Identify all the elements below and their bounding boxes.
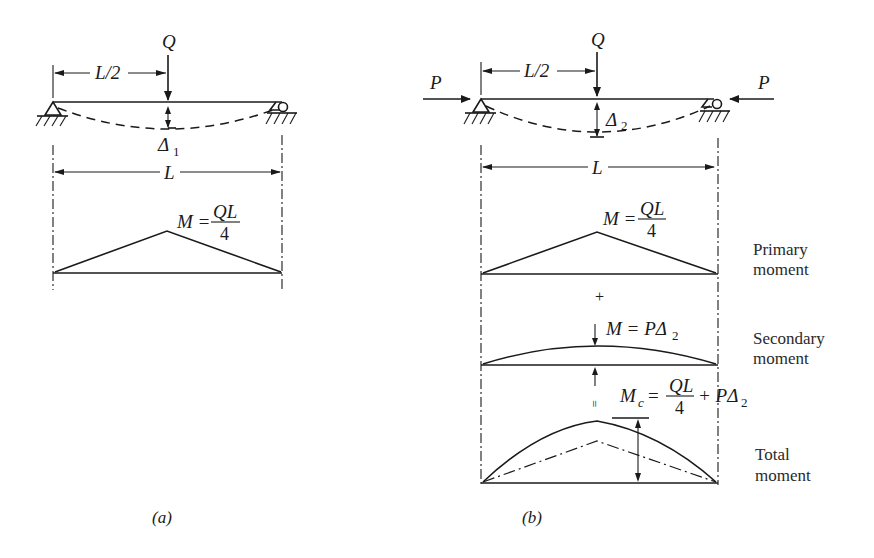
primary-moment-label: Primary — [753, 240, 808, 259]
svg-text:QL: QL — [669, 375, 693, 396]
svg-text:1: 1 — [173, 144, 180, 159]
deflection-label-b: Δ — [605, 109, 617, 130]
roller-support-icon — [266, 102, 297, 124]
total-moment-expr: M — [619, 385, 637, 406]
pin-support-icon — [36, 102, 68, 126]
deflection-label: Δ — [157, 134, 169, 155]
svg-text:c: c — [638, 395, 644, 410]
moment-label: M = — [176, 211, 210, 232]
plus-sign: + — [595, 288, 604, 305]
span-label: L — [163, 162, 175, 183]
axial-load-left-label: P — [429, 72, 442, 93]
svg-text:QL: QL — [213, 201, 237, 222]
primary-moment-diagram — [483, 232, 716, 273]
load-q-label-b: Q — [591, 29, 605, 50]
svg-text:moment: moment — [753, 349, 809, 368]
pin-support-icon-b — [464, 99, 496, 124]
axial-load-right-label: P — [757, 72, 770, 93]
svg-text:QL: QL — [640, 198, 664, 219]
half-span-label-b: L/2 — [523, 60, 550, 81]
panel-a: Q L/2 Δ 1 — [36, 31, 297, 527]
svg-text:moment: moment — [753, 260, 809, 279]
svg-text:=: = — [648, 385, 659, 406]
roller-support-icon-b — [699, 99, 730, 122]
svg-text:2: 2 — [621, 118, 628, 133]
load-q-label: Q — [162, 31, 176, 52]
svg-text:2: 2 — [672, 328, 679, 343]
half-span-label: L/2 — [94, 62, 121, 83]
panel-b: Q P P L/2 Δ 2 — [423, 29, 825, 527]
svg-text:4: 4 — [647, 221, 656, 241]
svg-text:M =: M = — [602, 208, 636, 229]
caption-b: (b) — [522, 508, 542, 527]
equals-sign: = — [587, 400, 602, 407]
svg-text:4: 4 — [220, 224, 229, 244]
secondary-moment-diagram — [483, 346, 716, 364]
svg-text:+ PΔ: + PΔ — [698, 385, 738, 406]
caption-a: (a) — [152, 508, 172, 527]
total-moment-label: Total — [755, 445, 790, 464]
secondary-moment-expr: M = PΔ — [605, 318, 667, 339]
svg-text:moment: moment — [755, 466, 811, 485]
moment-diagram — [55, 231, 281, 272]
span-label-b: L — [591, 157, 603, 178]
total-moment-diagram — [483, 421, 716, 482]
beam-column-diagram: Q L/2 Δ 1 — [0, 0, 874, 558]
secondary-moment-label: Secondary — [753, 329, 825, 348]
svg-text:2: 2 — [741, 395, 748, 410]
svg-text:4: 4 — [675, 398, 684, 418]
primary-moment-reference — [483, 441, 716, 482]
